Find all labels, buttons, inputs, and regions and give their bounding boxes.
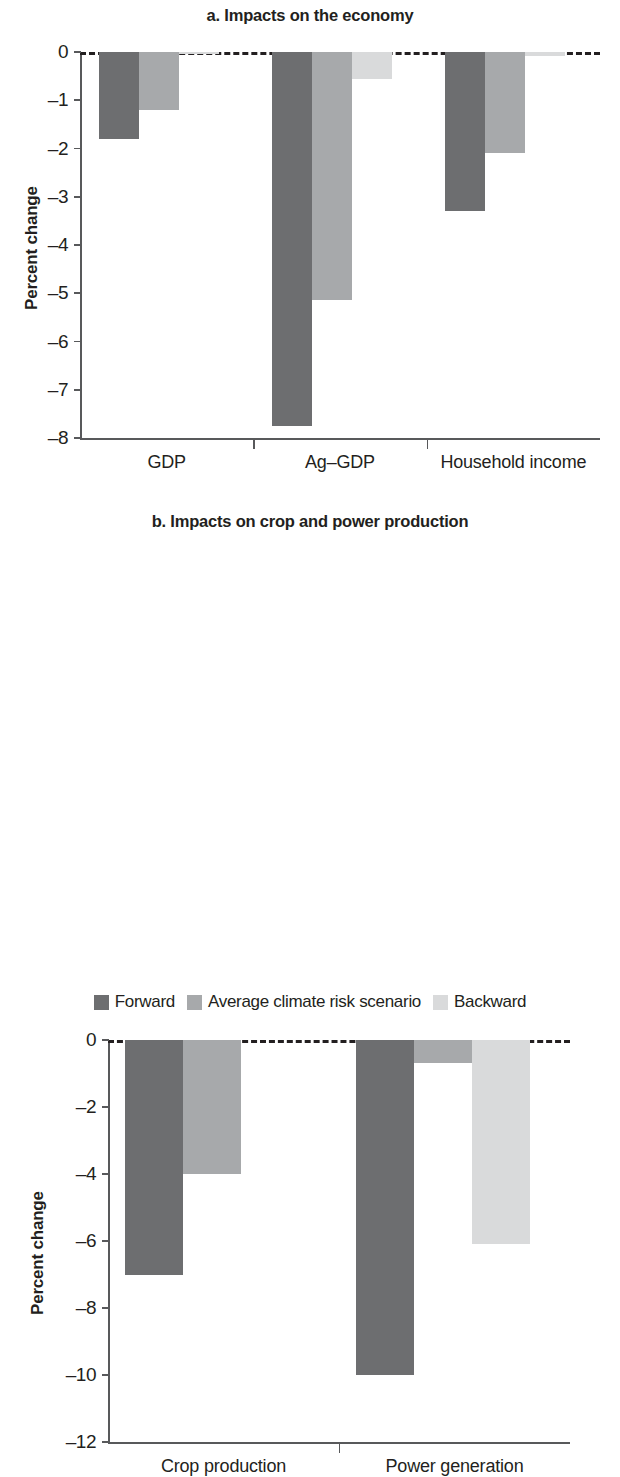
y-axis-tick: [102, 1240, 109, 1242]
bar-average: [414, 1040, 472, 1063]
panel-b-plot-area: 0–2–4–6–8–10–12Crop productionPower gene…: [108, 1040, 570, 1442]
legend-item: Backward: [433, 992, 526, 1012]
y-axis-tick: [74, 437, 81, 439]
y-axis-tick: [74, 341, 81, 343]
bar-forward: [356, 1040, 414, 1375]
bar-average: [312, 52, 352, 300]
bar-forward: [445, 52, 485, 211]
panel-a-plot-area: 0–1–2–3–4–5–6–7–8GDPAg–GDPHousehold inco…: [80, 52, 600, 438]
x-axis-group-tick: [253, 439, 254, 449]
y-axis-tick-label: –10: [46, 1364, 96, 1386]
y-axis-tick: [74, 51, 81, 53]
y-axis-tick-label: –8: [18, 427, 68, 449]
y-axis-tick-label: –7: [18, 379, 68, 401]
y-axis-tick: [74, 292, 81, 294]
y-axis-tick-label: –5: [18, 282, 68, 304]
y-axis-tick: [74, 196, 81, 198]
legend-item-label: Forward: [115, 992, 175, 1012]
y-axis-tick-label: –4: [18, 234, 68, 256]
y-axis-tick-label: 0: [46, 1029, 96, 1051]
x-axis-category-label: Power generation: [309, 1456, 600, 1477]
legend: ForwardAverage climate risk scenarioBack…: [0, 992, 620, 1012]
bar-backward: [352, 52, 392, 79]
x-axis-group-tick: [427, 439, 428, 449]
y-axis-tick-label: –3: [18, 186, 68, 208]
y-axis-tick: [74, 99, 81, 101]
y-axis-tick-label: –8: [46, 1297, 96, 1319]
panel-b-title: b. Impacts on crop and power production: [0, 512, 620, 531]
bar-backward: [179, 52, 219, 54]
bar-average: [485, 52, 525, 153]
y-axis-tick-label: –6: [46, 1230, 96, 1252]
backward-swatch-icon: [433, 995, 448, 1010]
bar-backward: [525, 52, 565, 56]
legend-item-label: Backward: [454, 992, 526, 1012]
y-axis-tick-label: –6: [18, 331, 68, 353]
average-swatch-icon: [187, 995, 202, 1010]
panel-b-y-axis-title: Percent change: [28, 1191, 48, 1315]
legend-item: Average climate risk scenario: [187, 992, 421, 1012]
y-axis-tick-label: –12: [46, 1431, 96, 1453]
y-axis-tick: [74, 389, 81, 391]
bar-backward: [472, 1040, 530, 1244]
y-axis-tick: [102, 1039, 109, 1041]
panel-a-impacts-on-the-economy: a. Impacts on the economy Percent change…: [0, 0, 620, 490]
panel-a-title: a. Impacts on the economy: [0, 6, 620, 25]
y-axis-tick: [102, 1106, 109, 1108]
y-axis-tick: [102, 1307, 109, 1309]
x-axis-line: [80, 438, 600, 440]
bar-forward: [99, 52, 139, 139]
y-axis-tick-label: –2: [46, 1096, 96, 1118]
y-axis-tick-label: –4: [46, 1163, 96, 1185]
y-axis-tick-label: 0: [18, 41, 68, 63]
y-axis-tick: [74, 148, 81, 150]
x-axis-group-tick: [339, 1443, 340, 1453]
y-axis-tick-label: –1: [18, 89, 68, 111]
bar-average: [183, 1040, 241, 1174]
y-axis-tick: [102, 1441, 109, 1443]
y-axis-tick: [102, 1173, 109, 1175]
bar-forward: [272, 52, 312, 426]
y-axis-tick: [102, 1374, 109, 1376]
forward-swatch-icon: [94, 995, 109, 1010]
bar-forward: [125, 1040, 183, 1275]
x-axis-category-label: Household income: [397, 452, 620, 473]
bar-average: [139, 52, 179, 110]
y-axis-tick-label: –2: [18, 138, 68, 160]
legend-item: Forward: [94, 992, 175, 1012]
y-axis-tick: [74, 244, 81, 246]
legend-item-label: Average climate risk scenario: [208, 992, 421, 1012]
panel-b-impacts-on-crop-and-power-production: b. Impacts on crop and power production …: [0, 490, 620, 970]
